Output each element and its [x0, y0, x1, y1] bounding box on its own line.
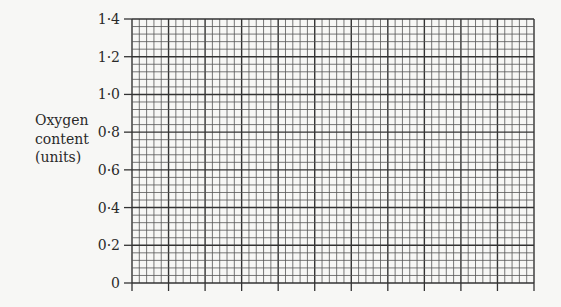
- graph-paper-grid: [0, 0, 561, 307]
